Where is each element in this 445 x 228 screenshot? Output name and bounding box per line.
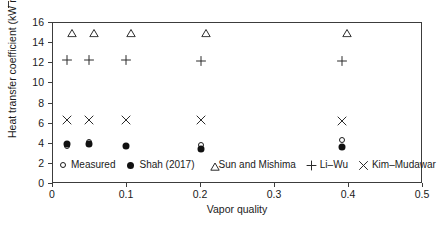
marker-plus bbox=[306, 160, 317, 171]
legend-label: Li–Wu bbox=[320, 160, 348, 170]
y-tick bbox=[48, 183, 52, 184]
y-tick-label: 14 bbox=[32, 36, 44, 48]
y-tick-label: 6 bbox=[38, 117, 44, 129]
legend-entry: Li–Wu bbox=[307, 160, 348, 170]
x-tick bbox=[422, 183, 423, 187]
x-tick-label: 0 bbox=[49, 188, 55, 200]
x-axis-label: Vapor quality bbox=[52, 203, 422, 215]
y-tick-label: 2 bbox=[38, 157, 44, 169]
x-tick-label: 0.4 bbox=[341, 188, 356, 200]
legend-swatch-plus bbox=[307, 161, 316, 170]
x-tick-label: 0.3 bbox=[267, 188, 282, 200]
marker-cross bbox=[196, 115, 207, 126]
legend-swatch-open-circle bbox=[58, 161, 67, 170]
legend-label: Sun and Mishima bbox=[219, 160, 296, 170]
y-tick-label: 12 bbox=[32, 56, 44, 68]
y-axis-label: Heat transfer coefficient (kW m−2 K−1) bbox=[6, 0, 18, 138]
legend-label: Shah (2017) bbox=[139, 160, 194, 170]
marker-filled-circle bbox=[127, 162, 134, 169]
chart-legend: MeasuredShah (2017)Sun and MishimaLi–WuK… bbox=[58, 160, 436, 170]
x-tick-label: 0.2 bbox=[193, 188, 208, 200]
y-tick-label: 0 bbox=[38, 177, 44, 189]
x-tick bbox=[200, 183, 201, 187]
legend-label: Measured bbox=[71, 160, 115, 170]
y-axis-label-prefix: Heat transfer coefficient (kW m bbox=[6, 0, 18, 138]
legend-swatch-filled-circle bbox=[126, 161, 135, 170]
marker-cross bbox=[336, 115, 347, 126]
y-tick-label: 16 bbox=[32, 16, 44, 28]
marker-cross bbox=[62, 114, 73, 125]
x-tick-label: 0.1 bbox=[119, 188, 134, 200]
marker-open-circle bbox=[60, 162, 66, 168]
chart-figure: Heat transfer coefficient (kW m−2 K−1) V… bbox=[0, 0, 445, 228]
x-tick-label: 0.5 bbox=[415, 188, 430, 200]
legend-entry: Measured bbox=[58, 160, 115, 170]
legend-swatch-cross bbox=[359, 161, 368, 170]
x-tick bbox=[126, 183, 127, 187]
legend-swatch-open-triangle bbox=[206, 161, 215, 170]
marker-cross bbox=[120, 114, 131, 125]
marker-open-triangle bbox=[206, 162, 214, 169]
y-tick-label: 10 bbox=[32, 76, 44, 88]
marker-cross bbox=[84, 114, 95, 125]
x-tick bbox=[52, 183, 53, 187]
x-tick bbox=[274, 183, 275, 187]
legend-label: Kim–Mudawar bbox=[372, 160, 436, 170]
y-tick-label: 4 bbox=[38, 137, 44, 149]
legend-entry: Kim–Mudawar bbox=[359, 160, 436, 170]
y-tick-label: 8 bbox=[38, 97, 44, 109]
legend-entry: Shah (2017) bbox=[126, 160, 194, 170]
x-tick bbox=[348, 183, 349, 187]
legend-entry: Sun and Mishima bbox=[206, 160, 296, 170]
marker-cross bbox=[358, 160, 369, 171]
